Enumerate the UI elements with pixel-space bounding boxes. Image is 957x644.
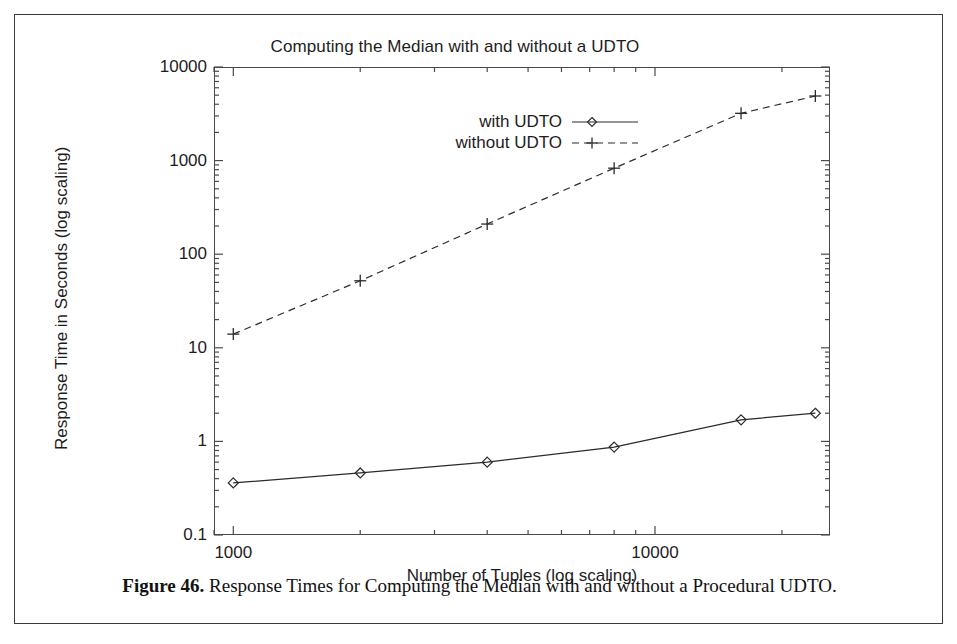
data-point — [481, 218, 493, 230]
y-tick-label: 1 — [198, 431, 207, 451]
legend-label: with UDTO — [479, 112, 570, 132]
legend-line-sample — [570, 136, 640, 150]
figure-frame: Computing the Median with and without a … — [14, 14, 943, 624]
y-tick-label: 1000 — [169, 151, 207, 171]
x-tick-label: 1000 — [214, 543, 252, 563]
legend-item: without UDTO — [410, 132, 640, 153]
chart-region: Computing the Median with and without a … — [15, 15, 944, 570]
y-axis-tick-labels: 1000010001001010.1 — [75, 67, 207, 535]
y-axis-title: Response Time in Seconds (log scaling) — [52, 160, 72, 450]
figure-caption-text: Response Times for Computing the Median … — [204, 575, 836, 596]
legend-line-sample — [570, 115, 640, 129]
data-point — [735, 107, 747, 119]
x-tick-label: 10000 — [631, 543, 678, 563]
figure-caption: Figure 46. Response Times for Computing … — [15, 575, 944, 597]
chart-title: Computing the Median with and without a … — [15, 37, 895, 57]
data-point — [809, 90, 821, 102]
legend-label: without UDTO — [456, 133, 570, 153]
chart-legend: with UDTOwithout UDTO — [410, 111, 640, 153]
y-tick-label: 0.1 — [183, 525, 207, 545]
figure-caption-number: Figure 46. — [122, 575, 204, 596]
data-point — [354, 275, 366, 287]
data-point — [227, 328, 239, 340]
series-line-0 — [233, 413, 815, 483]
y-tick-label: 10 — [188, 338, 207, 358]
legend-item: with UDTO — [410, 111, 640, 132]
y-tick-label: 10000 — [160, 57, 207, 77]
y-tick-label: 100 — [179, 244, 207, 264]
data-point — [608, 162, 620, 174]
